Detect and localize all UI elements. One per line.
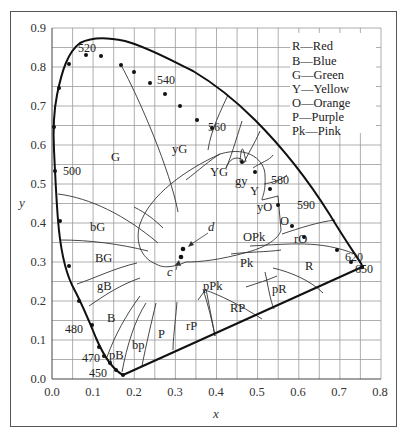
wavelength-label: 520 (78, 41, 96, 55)
legend-item: O—Orange (292, 96, 351, 110)
x-tick: 0.0 (44, 385, 60, 399)
y-tick: 0.5 (30, 177, 46, 191)
x-tick: 0.5 (249, 385, 265, 399)
region-label-pB: pB (109, 348, 124, 362)
white-point-c (179, 255, 184, 260)
region-label-B: B (107, 311, 115, 325)
purple-line (123, 267, 362, 375)
chromaticity-diagram: 0.0 0.1 0.2 0.3 0.4 0.5 0.6 0.7 0.8 0.9 … (0, 0, 412, 439)
region-label-gy: gy (235, 174, 248, 188)
x-tick: 0.2 (126, 385, 142, 399)
x-axis-label: x (212, 406, 219, 421)
legend-item: Y—Yellow (292, 82, 349, 96)
x-tick: 0.4 (208, 385, 224, 399)
label-d: d (208, 220, 215, 234)
y-tick: 0.8 (30, 60, 46, 74)
region-label-OPk: OPk (243, 230, 266, 244)
region-label-bp: bp (132, 338, 145, 352)
y-tick: 0.6 (30, 138, 46, 152)
legend-item: P—Purple (292, 110, 345, 124)
y-tick: 0.9 (30, 21, 46, 35)
x-tick: 0.6 (290, 385, 306, 399)
y-tick: 0.2 (30, 294, 46, 308)
arrowhead-c (175, 260, 181, 266)
wavelength-label: 480 (65, 322, 83, 336)
region-label-RP: RP (230, 301, 245, 315)
region-label-bG: bG (90, 220, 105, 234)
region-label-gB: gB (97, 279, 112, 293)
region-label-G: G (111, 150, 120, 164)
label-c: c (167, 265, 173, 279)
wavelength-label: 540 (157, 73, 175, 87)
region-label-pPk: pPk (203, 279, 223, 293)
region-label-Y: Y (250, 184, 259, 198)
legend-item: R—Red (292, 39, 334, 53)
region-label-YG: YG (210, 165, 228, 179)
region-label-P: P (158, 327, 165, 341)
x-tick: 0.8 (372, 385, 388, 399)
y-tick: 0.7 (30, 99, 46, 113)
region-label-R: R (305, 259, 314, 273)
arrow-d (190, 233, 208, 245)
y-tick: 0.0 (30, 372, 46, 386)
arrowhead-d (188, 241, 194, 247)
region-label-pR: pR (272, 282, 287, 296)
x-tick: 0.7 (331, 385, 347, 399)
y-axis-label: y (17, 195, 25, 210)
region-label-rO: rO (294, 232, 307, 246)
region-label-yO: yO (257, 200, 272, 214)
y-tick: 0.1 (30, 333, 46, 347)
legend-item: Pk—Pink (292, 124, 341, 138)
wavelength-label: 450 (89, 366, 107, 380)
wavelength-label: 650 (355, 262, 373, 276)
wavelength-label: 500 (63, 164, 81, 178)
region-label-BG: BG (95, 251, 112, 265)
wavelength-label: 560 (208, 120, 226, 134)
y-tick: 0.3 (30, 255, 46, 269)
wavelength-label: 590 (297, 198, 315, 212)
white-point-d (181, 247, 186, 252)
x-tick: 0.3 (167, 385, 183, 399)
y-tick-labels: 0.0 0.1 0.2 0.3 0.4 0.5 0.6 0.7 0.8 0.9 (30, 21, 46, 386)
y-tick: 0.4 (30, 216, 46, 230)
region-label-Pk: Pk (240, 256, 254, 270)
wavelength-label: 470 (82, 351, 100, 365)
legend-item: G—Green (292, 68, 345, 82)
x-tick: 0.1 (85, 385, 101, 399)
region-label-rP: rP (186, 319, 197, 333)
region-label-yG: yG (172, 142, 187, 156)
x-tick-labels: 0.0 0.1 0.2 0.3 0.4 0.5 0.6 0.7 0.8 (44, 385, 388, 399)
region-label-O: O (280, 214, 289, 228)
wavelength-label: 580 (271, 173, 289, 187)
legend-item: B—Blue (292, 54, 337, 68)
